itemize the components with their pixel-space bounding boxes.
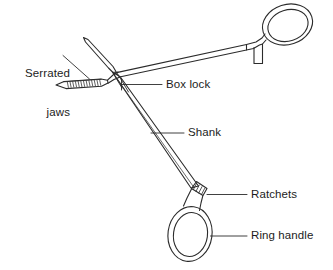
label-box-lock: Box lock	[166, 78, 210, 91]
lower-ring-neck-left	[184, 189, 192, 206]
label-ratchets: Ratchets	[251, 188, 297, 201]
label-serrated-jaws-line2: jaws	[0, 106, 70, 119]
upper-arm	[84, 0, 318, 77]
leader-lines	[63, 56, 247, 237]
label-shank: Shank	[188, 126, 221, 139]
label-serrated-jaws: Serrated jaws	[0, 41, 70, 145]
instrument-diagram: Serrated jaws Box lock Shank Ratchets Ri…	[0, 0, 333, 270]
label-serrated-jaws-line1: Serrated	[0, 67, 70, 80]
upper-ring-outer	[257, 0, 318, 51]
lower-arm	[56, 72, 216, 264]
upper-jaw-blade	[84, 38, 117, 73]
ratchet-teeth	[193, 183, 204, 194]
lower-ring-inner	[171, 210, 211, 258]
upper-ring-neck-upper	[247, 34, 266, 45]
label-ring-handle: Ring handle	[251, 229, 313, 242]
upper-shank	[117, 45, 247, 78]
